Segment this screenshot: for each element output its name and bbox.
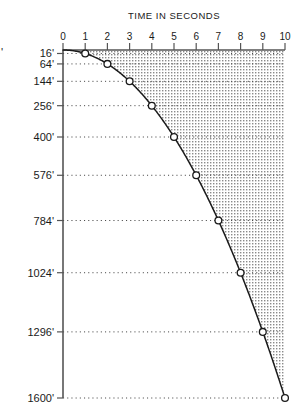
y-tick-label: 144' (34, 75, 54, 87)
data-point-marker (193, 172, 200, 179)
x-tick-label: 2 (105, 31, 111, 42)
y-tick-label: 1024' (27, 267, 54, 279)
x-tick-label: 0 (60, 31, 66, 42)
x-tick-label: 9 (260, 31, 266, 42)
x-tick-label: 3 (127, 31, 133, 42)
data-point-marker (282, 395, 289, 402)
x-tick-label: 7 (216, 31, 222, 42)
y-tick-label: 576' (34, 169, 54, 181)
left-edge-mark: ' (1, 46, 3, 58)
x-tick-label: 8 (238, 31, 244, 42)
data-point-marker (171, 134, 178, 141)
x-tick-label: 1 (82, 31, 88, 42)
data-point-marker (104, 61, 111, 68)
x-tick-label: 6 (193, 31, 199, 42)
free-fall-distance-chart: ' TIME IN SECONDS 012345678910 16'64'144… (0, 0, 297, 416)
y-tick-label: 1600' (27, 392, 54, 404)
y-tick-label: 400' (34, 131, 54, 143)
x-tick-label: 5 (171, 31, 177, 42)
data-point-marker (82, 50, 89, 57)
y-tick-label: 1296' (27, 326, 54, 338)
x-tick-label: 4 (149, 31, 155, 42)
y-tick-label: 256' (34, 100, 54, 112)
data-point-marker (259, 328, 266, 335)
x-tick-label: 10 (279, 31, 291, 42)
data-point-marker (126, 78, 133, 85)
chart-svg: ' TIME IN SECONDS 012345678910 16'64'144… (0, 0, 297, 416)
data-point-marker (148, 102, 155, 109)
data-point-marker (237, 269, 244, 276)
data-point-marker (215, 217, 222, 224)
y-tick-label: 64' (40, 58, 54, 70)
y-tick-label: 784' (34, 215, 54, 227)
chart-title: TIME IN SECONDS (128, 10, 220, 21)
